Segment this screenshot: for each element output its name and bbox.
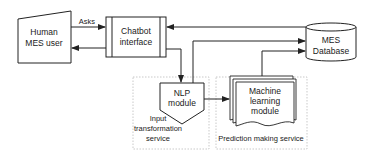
human-user-node	[18, 11, 71, 63]
ml-label-1: Machine	[249, 86, 281, 96]
database-label-1: MES	[322, 35, 341, 45]
human-user-label-1: Human	[30, 27, 58, 37]
chatbot-label-1: Chatbot	[121, 26, 151, 36]
input-service-label-1: Input	[150, 114, 168, 123]
prediction-service-label: Prediction making service	[218, 134, 303, 143]
chatbot-label-2: interface	[120, 37, 153, 47]
nlp-label-2: module	[168, 98, 196, 108]
edge-asks-label: Asks	[79, 17, 96, 26]
nlp-label-1: NLP	[174, 88, 191, 98]
database-label-2: Database	[313, 46, 350, 56]
ml-label-3: module	[251, 106, 279, 116]
human-user-label-2: MES user	[25, 38, 62, 48]
input-service-label-2: transformation	[134, 124, 182, 133]
architecture-diagram: Human MES user Chatbot interface MES Dat…	[0, 0, 366, 155]
ml-label-2: learning	[250, 96, 281, 106]
input-service-label-3: service	[146, 134, 170, 143]
edge-ml-to-database	[262, 51, 305, 76]
